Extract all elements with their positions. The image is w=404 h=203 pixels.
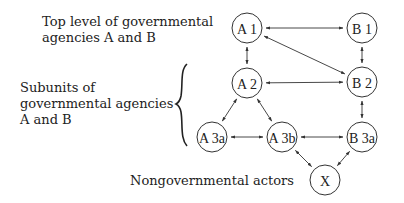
network-diagram: A 1B 1A 2B 2A 3aA 3bB 3aX [0, 0, 404, 203]
node-label: A 3b [269, 131, 296, 146]
node-label: A 3a [199, 131, 226, 146]
edge-a2-a3a [222, 99, 236, 121]
node-a3b: A 3b [267, 122, 297, 152]
node-label: B 1 [352, 22, 372, 37]
edge-a3b-x [295, 150, 311, 166]
node-a2: A 2 [232, 68, 262, 98]
node-label: B 2 [352, 76, 372, 91]
node-b3a: B 3a [347, 122, 377, 152]
node-label: A 2 [237, 77, 257, 92]
node-label: B 3a [349, 131, 376, 146]
nodes-layer: A 1B 1A 2B 2A 3aA 3bB 3aX [197, 13, 377, 195]
node-label: X [320, 174, 330, 189]
edge-a2-b2 [266, 82, 343, 83]
node-b1: B 1 [347, 13, 377, 43]
node-a3a: A 3a [197, 122, 227, 152]
node-x: X [310, 165, 340, 195]
edge-a2-a3b [257, 99, 271, 121]
node-b2: B 2 [347, 67, 377, 97]
edge-b3a-x [337, 151, 349, 165]
curly-brace-icon [176, 64, 187, 146]
node-label: A 1 [237, 22, 257, 37]
node-a1: A 1 [232, 13, 262, 43]
edge-a1-b2 [264, 36, 345, 74]
